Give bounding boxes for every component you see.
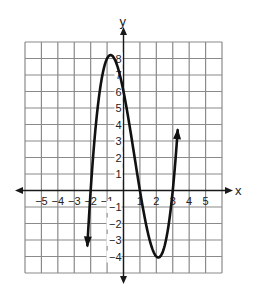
y-tick-label: −2 [109,218,122,230]
x-axis-arrow-left [15,187,23,194]
series [84,55,181,257]
function-curve [87,55,177,257]
y-axis-arrow-bottom [120,276,127,284]
x-tick-label: 4 [186,195,192,207]
y-tick-label: 6 [115,86,121,98]
y-tick-label: 5 [115,102,121,114]
y-tick-label: 1 [115,168,121,180]
y-tick-label: 3 [115,135,121,147]
axes: x y [15,14,242,284]
y-tick-label: −1 [109,201,122,213]
x-tick-label: −4 [52,195,65,207]
y-tick-label: 4 [115,119,121,131]
x-tick-label: 2 [153,195,159,207]
chart: x y −5−4−3−2−11234587654321−1−2−3−4 [0,0,253,294]
y-tick-label: −4 [109,251,122,263]
x-axis-arrow-right [225,187,233,194]
y-tick-label: 2 [115,152,121,164]
y-axis-title: y [120,14,127,29]
x-tick-label: 5 [203,195,209,207]
x-tick-label: −5 [35,195,48,207]
x-axis-title: x [235,183,242,198]
y-tick-label: −3 [109,234,122,246]
x-tick-label: −3 [68,195,81,207]
